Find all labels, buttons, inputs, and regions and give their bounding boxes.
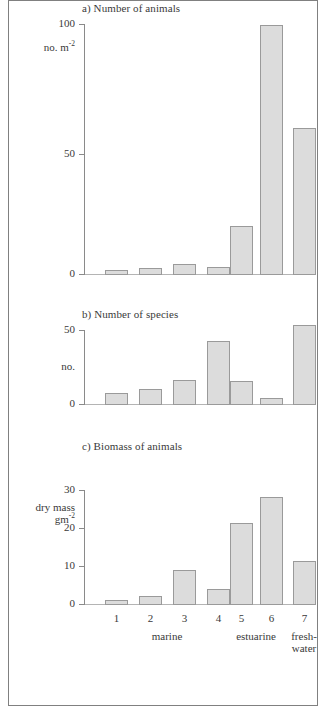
panel-a-ytick-label-100: 100 [24,17,75,29]
bar-a-6 [260,25,283,275]
panel-c-ytick-label-10: 10 [24,559,75,571]
panel-c-ytick-label-0: 0 [24,597,75,609]
bar-c-3 [173,570,196,605]
panel-c-ytick-10 [79,566,85,567]
panel-c-y-axis-title-line2: gm [55,513,69,525]
panel-a-y-axis-title: no. m-2 [14,41,75,53]
xtick-label-4: 4 [207,612,230,624]
bar-a-7 [293,128,316,275]
panel-c-ytick-label-30: 30 [24,483,75,495]
xgroup-label-freshwater-line1: fresh- [291,630,317,642]
panel-a-ytick-100 [79,24,85,25]
bar-b-1 [105,393,128,405]
panel-a-ytick-label-50: 50 [24,147,75,159]
panel-b-ytick-label-0: 0 [24,397,75,409]
panel-c-y-axis [84,490,85,605]
panel-a-y-axis [84,24,85,275]
panel-c-y-axis-title: dry massgm-2 [8,501,75,525]
bar-a-5 [230,226,253,275]
bar-c-2 [139,596,162,605]
bar-c-7 [293,561,316,605]
xtick-label-7: 7 [293,612,316,624]
bar-a-1 [105,270,128,275]
bar-b-7 [293,325,316,405]
xtick-label-5: 5 [230,612,253,624]
bar-c-1 [105,600,128,605]
panel-a-y-axis-title-exponent: -2 [69,39,75,48]
bar-b-3 [173,380,196,405]
panel-b-y-axis-title: no. [14,360,75,372]
xtick-label-1: 1 [105,612,128,624]
panel-c-y-axis-title-exponent: -2 [69,511,75,520]
xtick-label-6: 6 [260,612,283,624]
bar-c-6 [260,497,283,605]
panel-a-ytick-50 [79,154,85,155]
panel-c-title: c) Biomass of animals [82,440,182,452]
bar-c-5 [230,523,253,605]
panel-b-y-axis [84,330,85,405]
panel-b-ytick-50 [79,330,85,331]
panel-c-ytick-30 [79,490,85,491]
bar-b-5 [230,381,253,405]
panel-c-ytick-20 [79,528,85,529]
xgroup-label-freshwater-line2: water [292,642,316,654]
bar-a-3 [173,264,196,275]
bar-a-2 [139,268,162,275]
bar-b-2 [139,389,162,405]
xtick-label-3: 3 [173,612,196,624]
panel-b-ytick-label-50: 50 [24,323,75,335]
panel-a-ytick-label-0: 0 [24,267,75,279]
xtick-label-2: 2 [139,612,162,624]
panel-a-title: a) Number of animals [82,2,180,14]
panel-a-y-axis-title-text: no. m [44,41,69,53]
xgroup-label-freshwater: fresh-water [282,630,326,654]
panel-b-title: b) Number of species [82,308,178,320]
xgroup-label-marine: marine [117,630,217,642]
bar-b-4 [207,341,230,405]
bar-c-4 [207,589,230,605]
bar-b-6 [260,398,283,405]
bar-a-4 [207,267,230,275]
